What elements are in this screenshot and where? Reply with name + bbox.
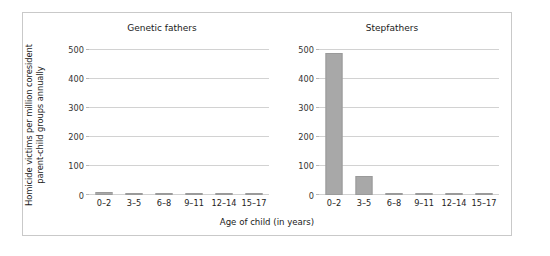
x-tick-label-genetic-fathers-0: 0–2 [97,198,112,208]
bar-slot-stepfathers-4: 12–14 [439,47,469,195]
bar-genetic-fathers-5[interactable] [246,193,263,195]
bar-stepfathers-0[interactable] [326,53,343,195]
x-tick-label-stepfathers-0: 0–2 [327,198,342,208]
y-tick-label-300: 300 [68,103,84,113]
panel-title-genetic-fathers: Genetic fathers [51,23,273,33]
bar-slot-genetic-fathers-0: 0–2 [89,47,119,195]
bar-genetic-fathers-4[interactable] [216,193,233,195]
y-tick-label-200: 200 [298,132,314,142]
bar-slot-genetic-fathers-1: 3–5 [119,47,149,195]
x-tick-label-stepfathers-5: 15–17 [472,198,497,208]
bar-slot-genetic-fathers-5: 15–17 [239,47,269,195]
panel-genetic-fathers: Genetic fathers 0100200300400500 0–23–56… [51,21,273,229]
bar-genetic-fathers-0[interactable] [96,192,113,195]
bars-genetic-fathers: 0–23–56–89–1112–1415–17 [89,47,269,195]
bar-slot-genetic-fathers-3: 9–11 [179,47,209,195]
bars-stepfathers: 0–23–56–89–1112–1415–17 [319,47,499,195]
x-tick-label-genetic-fathers-4: 12–14 [212,198,237,208]
y-tick-label-400: 400 [298,74,314,84]
x-tick-label-stepfathers-4: 12–14 [442,198,467,208]
bar-stepfathers-3[interactable] [416,193,433,195]
y-tick-label-100: 100 [68,161,84,171]
bar-slot-stepfathers-5: 15–17 [469,47,499,195]
y-tick-label-500: 500 [68,45,84,55]
bar-slot-genetic-fathers-4: 12–14 [209,47,239,195]
y-tick-label-500: 500 [298,45,314,55]
bar-stepfathers-2[interactable] [386,193,403,195]
bar-genetic-fathers-1[interactable] [126,193,143,195]
bar-stepfathers-5[interactable] [476,193,493,195]
bar-slot-stepfathers-0: 0–2 [319,47,349,195]
y-axis-label-line-2: parent-child groups annually [34,44,45,206]
panel-title-stepfathers: Stepfathers [281,23,503,33]
bar-genetic-fathers-3[interactable] [186,193,203,195]
y-axis-label-container: Homicide victims per million coresident … [19,13,49,237]
bar-slot-stepfathers-1: 3–5 [349,47,379,195]
x-tick-label-genetic-fathers-5: 15–17 [242,198,267,208]
y-tick-label-100: 100 [298,161,314,171]
y-axis-label-line-1: Homicide victims per million coresident [24,44,35,206]
x-axis-label: Age of child (in years) [23,217,511,227]
y-tick-label-0: 0 [79,191,84,201]
bar-stepfathers-1[interactable] [356,176,373,195]
bar-stepfathers-4[interactable] [446,193,463,195]
bar-genetic-fathers-2[interactable] [156,193,173,195]
panel-stepfathers: Stepfathers 0100200300400500 0–23–56–89–… [281,21,503,229]
y-axis-label: Homicide victims per million coresident … [24,44,45,206]
y-tick-label-400: 400 [68,74,84,84]
chart-figure: Homicide victims per million coresident … [22,12,512,236]
y-tick-label-300: 300 [298,103,314,113]
x-tick-label-genetic-fathers-3: 9–11 [184,198,204,208]
x-tick-label-genetic-fathers-1: 3–5 [127,198,142,208]
bar-slot-stepfathers-3: 9–11 [409,47,439,195]
x-tick-label-stepfathers-1: 3–5 [357,198,372,208]
y-tick-label-200: 200 [68,132,84,142]
plot-area-stepfathers: 0100200300400500 0–23–56–89–1112–1415–17 [319,47,499,195]
bar-slot-genetic-fathers-2: 6–8 [149,47,179,195]
plot-area-genetic-fathers: 0100200300400500 0–23–56–89–1112–1415–17 [89,47,269,195]
x-tick-label-stepfathers-3: 9–11 [414,198,434,208]
bar-slot-stepfathers-2: 6–8 [379,47,409,195]
y-tick-label-0: 0 [309,191,314,201]
x-tick-label-stepfathers-2: 6–8 [387,198,402,208]
x-tick-label-genetic-fathers-2: 6–8 [157,198,172,208]
